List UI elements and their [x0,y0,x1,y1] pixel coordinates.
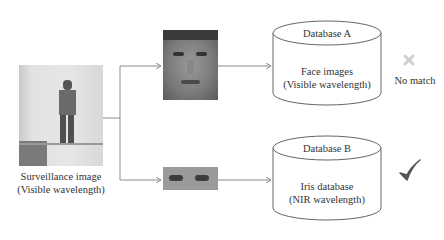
face-crop-image [163,30,218,100]
cross-icon [405,56,413,64]
database-a-title: Database A [273,27,381,40]
periocular-crop-image [163,167,218,190]
person-figure [56,80,78,150]
database-b-description: Iris database (NIR wavelength) [273,180,381,206]
database-a-line2: (Visible wavelength) [273,78,381,91]
database-a-description: Face images (Visible wavelength) [273,65,381,91]
surveillance-caption: Surveillance image (Visible wavelength) [0,170,122,196]
right-eye [196,52,207,56]
surveillance-caption-line2: (Visible wavelength) [0,183,122,196]
surveillance-image [19,65,103,166]
database-b-title: Database B [273,142,381,155]
database-b-line2: (NIR wavelength) [273,193,381,206]
check-icon [400,160,420,180]
database-a-line1: Face images [273,65,381,78]
database-b-line1: Iris database [273,180,381,193]
left-eye [173,52,184,56]
surveillance-caption-line1: Surveillance image [0,170,122,183]
no-match-label: No match [385,74,444,87]
